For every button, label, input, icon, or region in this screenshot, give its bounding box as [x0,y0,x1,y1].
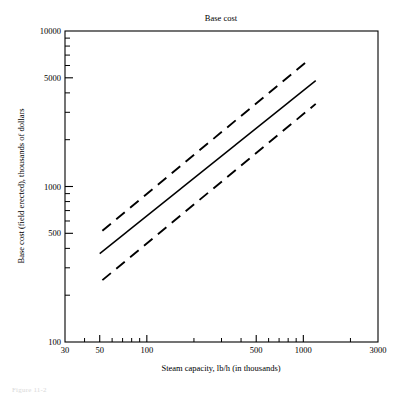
plot-frame [65,31,378,342]
x-tick-label: 50 [95,345,104,355]
x-tick-label: 3000 [370,345,387,355]
x-tick-label: 30 [61,345,70,355]
y-tick-label: 5000 [44,73,61,83]
series-line [100,81,316,254]
x-tick-label: 500 [250,345,263,355]
figure-container: Base cost 305010050010003000100500100050… [0,0,407,400]
data-series-layer [100,59,316,280]
series-line [102,59,309,231]
y-tick-label: 10000 [40,26,61,36]
chart-title: Base cost [205,13,238,23]
y-tick-label: 100 [48,337,61,347]
y-axis-title: Base cost (field erected), thousands of … [16,108,26,263]
y-tick-label: 500 [48,228,61,238]
axis-ticks-layer: 3050100500100030001005001000500010000 [40,26,387,355]
x-tick-label: 100 [140,345,153,355]
x-axis-title: Steam capacity, lb/h (in thousands) [161,363,280,373]
base-cost-chart: Base cost 305010050010003000100500100050… [0,0,407,400]
x-tick-label: 1000 [295,345,312,355]
figure-caption: Figure 11-2 [12,386,47,394]
series-line [102,104,315,280]
y-tick-label: 1000 [44,182,61,192]
